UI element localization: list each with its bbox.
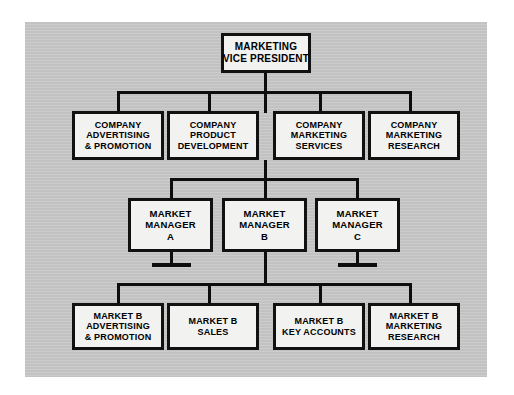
node-line: MARKET B [93,311,142,322]
node-market-b-marketing-research[interactable]: MARKET B MARKETING RESEARCH [368,303,460,350]
node-line: MARKET [337,208,379,219]
node-line: MARKET B [389,311,438,322]
node-line: SALES [197,327,228,338]
node-line: SERVICES [296,141,343,152]
connector-drop-corp-2 [208,91,211,112]
node-line: PRODUCT [190,130,236,141]
node-line: MARKET B [294,316,343,327]
connector-drop-manager-c [356,178,359,199]
connector-drop-corp-1 [117,91,120,112]
connector-drop-manager-a [170,178,173,199]
connector-bus-corporate [117,91,412,94]
node-line: ADVERTISING [86,321,150,332]
node-marketing-vice-president[interactable]: MARKETING VICE PRESIDENT [221,33,311,73]
node-line: MARKET B [188,316,237,327]
node-line: ADVERTISING [86,130,150,141]
node-line: MARKETING [386,130,442,141]
node-market-manager-a[interactable]: MARKET MANAGER A [128,198,213,252]
node-market-manager-c[interactable]: MARKET MANAGER C [315,198,400,252]
org-chart: MARKETING VICE PRESIDENT COMPANY ADVERTI… [0,0,514,395]
connector-stub-cap-manager-a [152,263,191,267]
node-line: B [261,231,268,242]
node-line: MANAGER [145,219,195,230]
node-company-product-development[interactable]: COMPANY PRODUCT DEVELOPMENT [167,111,259,160]
node-market-b-sales[interactable]: MARKET B SALES [167,303,259,350]
connector-drop-market-b-4 [409,283,412,304]
node-line: RESEARCH [388,141,440,152]
node-line: COMPANY [95,120,142,131]
node-market-manager-b[interactable]: MARKET MANAGER B [222,198,307,252]
node-line: RESEARCH [388,332,440,343]
node-line: MARKETING [386,321,442,332]
node-line: MARKET [244,208,286,219]
connector-drop-market-b-3 [319,283,322,304]
connector-stub-cap-manager-c [338,263,377,267]
node-line: MANAGER [239,219,289,230]
node-line: DEVELOPMENT [178,141,249,152]
node-market-b-key-accounts[interactable]: MARKET B KEY ACCOUNTS [273,303,365,350]
node-line: VICE PRESIDENT [223,53,309,65]
node-line: COMPANY [296,120,343,131]
node-company-marketing-research[interactable]: COMPANY MARKETING RESEARCH [368,111,460,160]
node-line: MARKET [150,208,192,219]
node-line: MARKETING [235,41,297,53]
connector-drop-corp-4 [409,91,412,112]
connector-trunk-manager-b [264,252,267,284]
node-line: & PROMOTION [85,332,152,343]
connector-drop-corp-3 [319,91,322,112]
node-line: A [167,231,174,242]
org-chart-screenshot: MARKETING VICE PRESIDENT COMPANY ADVERTI… [0,0,514,395]
node-line: C [354,231,361,242]
node-company-advertising-promotion[interactable]: COMPANY ADVERTISING & PROMOTION [72,111,164,160]
connector-bus-market-b-functions [117,283,412,286]
node-company-marketing-services[interactable]: COMPANY MARKETING SERVICES [273,111,365,160]
node-market-b-advertising-promotion[interactable]: MARKET B ADVERTISING & PROMOTION [72,303,164,350]
node-line: KEY ACCOUNTS [282,327,356,338]
node-line: COMPANY [391,120,438,131]
node-line: COMPANY [190,120,237,131]
node-line: MANAGER [332,219,382,230]
node-line: & PROMOTION [85,141,152,152]
node-line: MARKETING [291,130,347,141]
connector-bus-managers [170,178,359,181]
connector-drop-market-b-2 [208,283,211,304]
connector-drop-market-b-1 [117,283,120,304]
